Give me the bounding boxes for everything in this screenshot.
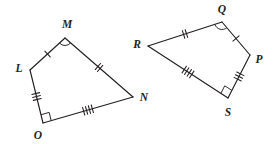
- edge-SR: [148, 46, 228, 98]
- vertex-label-p: P: [255, 53, 263, 65]
- tick-mark: [235, 75, 242, 79]
- geometry-canvas: MNOLQPSR: [0, 0, 273, 144]
- tick-mark: [234, 77, 241, 81]
- edge-NO: [43, 97, 133, 123]
- quadrilateral-lmno: [30, 38, 133, 123]
- vertex-label-n: N: [139, 91, 149, 103]
- vertex-label-o: O: [34, 129, 42, 141]
- edge-MN: [65, 38, 133, 97]
- quadrilateral-qpsr: [148, 22, 250, 98]
- edge-RQ: [148, 22, 222, 46]
- angle-arc-M: [59, 43, 70, 46]
- edge-PS-ticks: [234, 72, 244, 81]
- right-angle-S: [221, 86, 232, 94]
- geometry-figure: MNOLQPSR: [0, 0, 273, 144]
- vertex-label-r: R: [132, 38, 141, 50]
- vertex-label-s: S: [225, 106, 231, 118]
- edge-OL-ticks: [32, 93, 41, 101]
- vertex-label-m: M: [61, 18, 73, 30]
- tick-mark: [237, 72, 244, 76]
- vertex-label-l: L: [14, 62, 22, 74]
- vertex-label-q: Q: [218, 3, 226, 15]
